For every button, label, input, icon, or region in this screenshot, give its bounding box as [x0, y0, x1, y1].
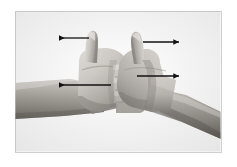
force-diagram-figure [0, 0, 237, 167]
figure-canvas [0, 0, 237, 167]
photo-frame [15, 11, 222, 153]
photo-content [15, 11, 221, 152]
